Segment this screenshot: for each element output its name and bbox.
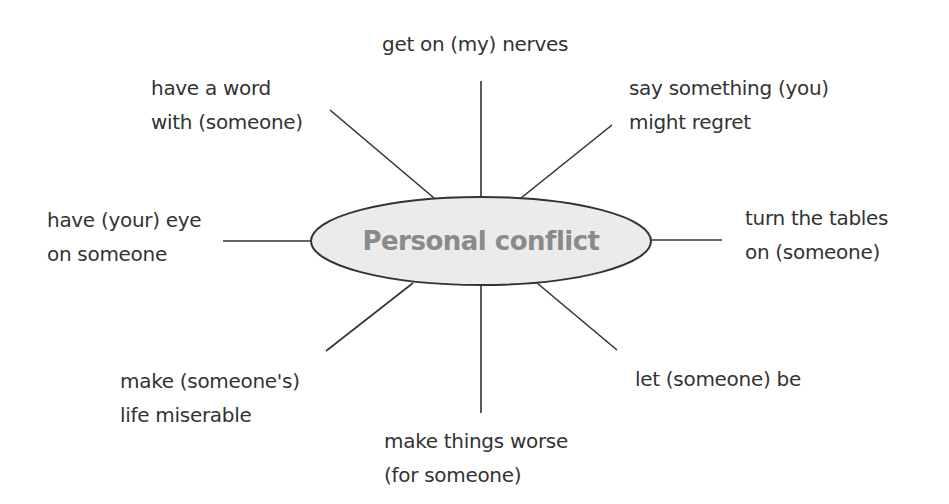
branch-label-bottom-left: make (someone's) life miserable [120, 364, 300, 432]
center-topic: Personal conflict [311, 216, 651, 266]
branch-label-top: get on (my) nerves [382, 27, 568, 61]
branch-label-line: with (someone) [151, 105, 303, 139]
branch-label-line: get on (my) nerves [382, 27, 568, 61]
branch-label-line: on (someone) [745, 235, 888, 269]
branch-label-right: turn the tables on (someone) [745, 201, 888, 269]
branch-line-top-right [521, 125, 612, 198]
branch-label-line: let (someone) be [635, 362, 801, 396]
branch-label-line: on someone [47, 237, 201, 271]
branch-line-bottom-right [537, 283, 617, 350]
branch-label-line: have (your) eye [47, 203, 201, 237]
branch-line-top-left [330, 110, 434, 198]
branch-label-line: might regret [629, 105, 829, 139]
branch-label-line: make (someone's) [120, 364, 300, 398]
branch-label-line: have a word [151, 71, 303, 105]
spider-diagram: Personal conflict get on (my) nerves hav… [0, 0, 949, 504]
branch-label-line: make things worse [384, 424, 568, 458]
branch-label-line: say something (you) [629, 71, 829, 105]
branch-label-line: turn the tables [745, 201, 888, 235]
branch-label-bottom-right: let (someone) be [635, 362, 801, 396]
branch-label-line: life miserable [120, 398, 300, 432]
branch-label-line: (for someone) [384, 458, 568, 492]
branch-label-top-left: have a word with (someone) [151, 71, 303, 139]
branch-label-left: have (your) eye on someone [47, 203, 201, 271]
branch-label-top-right: say something (you) might regret [629, 71, 829, 139]
branch-line-bottom-left [326, 283, 413, 351]
branch-label-bottom: make things worse (for someone) [384, 424, 568, 492]
